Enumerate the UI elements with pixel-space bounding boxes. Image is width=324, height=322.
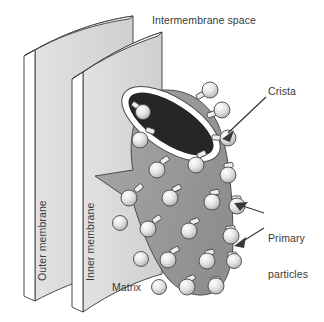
label-intermembrane-space: Intermembrane space [152,14,256,26]
particle [134,252,149,267]
particle [152,280,167,295]
label-matrix: Matrix [112,281,141,293]
particle [207,102,230,118]
label-primary-particles-line2: particles [268,268,308,280]
particle [113,216,128,231]
particle [227,252,242,269]
figure-canvas: Intermembrane space Crista Primary parti… [0,0,324,322]
label-primary-particles: Primary particles [268,208,308,304]
label-primary-particles-line1: Primary [268,232,308,244]
label-crista: Crista [268,85,296,97]
label-outer-membrane: Outer membrane [36,200,48,281]
particle [196,82,218,100]
label-inner-membrane: Inner membrane [84,203,96,281]
